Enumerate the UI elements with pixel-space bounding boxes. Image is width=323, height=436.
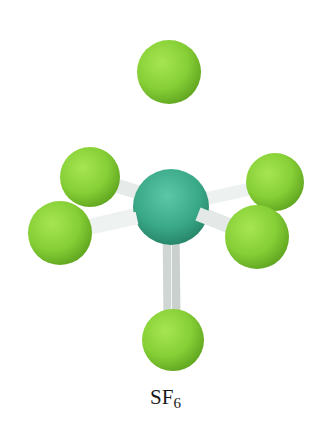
fluorine-atom-bottom	[142, 309, 204, 371]
fluorine-atom-upper-left	[60, 147, 120, 207]
fluorine-atom-lower-left	[28, 201, 92, 265]
formula-main: SF	[150, 385, 173, 409]
bond-upper-right	[200, 188, 255, 200]
fluorine-atom-upper-right	[246, 153, 304, 211]
formula-subscript: 6	[173, 395, 181, 411]
fluorine-atom-lower-right	[225, 205, 289, 269]
sf6-molecule-diagram	[0, 0, 323, 436]
sulfur-atom-center	[133, 169, 209, 245]
formula-label: SF6	[4, 385, 323, 412]
fluorine-atom-top	[137, 40, 201, 104]
